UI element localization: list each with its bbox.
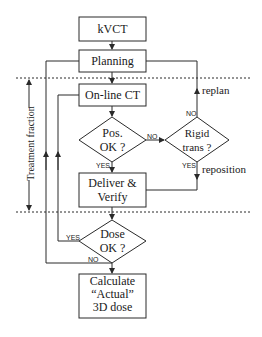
- dose-ok-line2: OK ?: [79, 241, 146, 255]
- kvct-label: kVCT: [79, 22, 146, 36]
- dose-ok-line1: Dose: [79, 227, 146, 241]
- pos-ok-line1: Pos.: [79, 126, 146, 140]
- deliver-verify-line2: Verify: [79, 190, 146, 204]
- rigid-trans-line2: trans ?: [165, 140, 229, 154]
- replan-label: replan: [202, 84, 229, 96]
- rigid-no-label: NO: [186, 110, 197, 118]
- calculate-line3: 3D dose: [79, 301, 146, 314]
- rigid-trans-line1: Rigid: [165, 126, 229, 140]
- online-ct-label: On-line CT: [79, 88, 146, 102]
- pos-ok-line2: OK ?: [79, 140, 146, 154]
- pos-ok-label: Pos. OK ?: [79, 126, 146, 154]
- planning-label: Planning: [79, 54, 146, 68]
- deliver-verify-line1: Deliver &: [79, 176, 146, 190]
- dose-ok-label: Dose OK ?: [79, 227, 146, 255]
- rigid-yes-label: YES: [182, 162, 196, 170]
- treatment-fraction-label: Treatment fraction: [25, 94, 36, 194]
- reposition-label: reposition: [202, 163, 246, 175]
- rigid-trans-label: Rigid trans ?: [165, 126, 229, 154]
- pos-yes-label: YES: [96, 162, 110, 170]
- deliver-verify-label: Deliver & Verify: [79, 176, 146, 204]
- pos-no-label: NO: [147, 133, 158, 141]
- dose-no-label: NO: [88, 256, 99, 264]
- dose-yes-label: YES: [66, 234, 80, 242]
- calculate-dose-label: Calculate “Actual” 3D dose: [79, 275, 146, 314]
